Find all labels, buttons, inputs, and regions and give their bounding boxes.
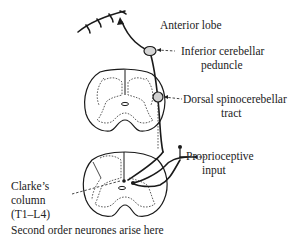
label-clarke-3: (T1–L4): [11, 208, 50, 221]
label-anterior-lobe: Anterior lobe: [160, 19, 222, 31]
clarkes-column: [72, 152, 187, 194]
label-inferior-peduncle: Inferior cerebellar: [181, 45, 264, 57]
neuron-cell-body-icon: [131, 181, 135, 185]
arrow-head-icon: [117, 17, 124, 25]
label-proprioceptive: Proprioceptive: [186, 150, 254, 163]
ascending-axon: [117, 17, 163, 152]
dorsal-spinocerebellar-tract: [153, 92, 163, 102]
label-clarke: Clarke’s: [11, 180, 50, 192]
label-clarke-2: column: [11, 194, 46, 206]
label-inferior-peduncle-2: peduncle: [201, 59, 243, 72]
label-dorsal-tract-2: tract: [221, 107, 242, 119]
label-proprioceptive-2: input: [202, 164, 226, 177]
inferior-cerebellar-peduncle: [144, 47, 156, 56]
ganglion-icon: [178, 145, 182, 149]
spinocerebellar-diagram: Anterior lobe Inferior cerebellar pedunc…: [0, 0, 296, 237]
upper-spinal-cord-section: [85, 69, 165, 131]
clarke-leader-line: [72, 181, 120, 194]
peduncle-leader-arrow-icon: [157, 48, 161, 52]
neuron-cell-body-icon: [122, 179, 126, 183]
label-dorsal-tract: Dorsal spinocerebellar: [183, 93, 287, 106]
caption: Second order neurones arise here: [11, 224, 164, 236]
